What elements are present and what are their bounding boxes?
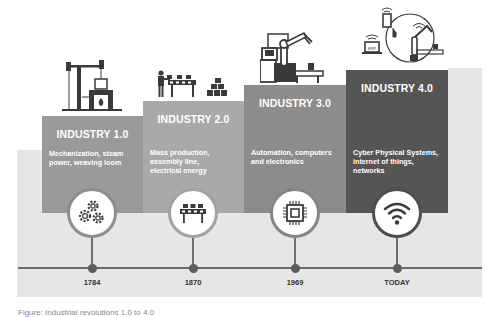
connected-iot-network-icon: ERP (360, 6, 460, 66)
stage-title: INDUSTRY 4.0 (346, 82, 448, 94)
year-label: TODAY (367, 278, 427, 287)
erp-label: ERP (368, 46, 377, 51)
stage-title: INDUSTRY 2.0 (143, 113, 244, 125)
stage-circle-4 (372, 188, 422, 238)
background-panel-right (448, 68, 482, 150)
figure-caption: Figure: Industrial revolutions 1.0 to 4.… (18, 308, 154, 317)
conveyor-belt-icon (178, 202, 208, 224)
timeline-dot (189, 264, 198, 273)
timeline-dot (291, 264, 300, 273)
stage-circle-3 (270, 188, 320, 238)
timeline-dot (393, 264, 402, 273)
steam-engine-icon (62, 57, 124, 113)
timeline-dot (88, 264, 97, 273)
assembly-line-worker-icon (155, 70, 235, 100)
stage-description: Cyber Physical Systems, internet of thin… (353, 148, 444, 175)
stage-description: Mass production, assembly line, electric… (150, 148, 240, 175)
stage-circle-2 (168, 188, 218, 238)
stage-title: INDUSTRY 1.0 (42, 128, 143, 140)
stage-circle-1 (67, 188, 117, 238)
year-label: 1969 (265, 278, 325, 287)
stage-description: Automation, computers and electronics (251, 148, 342, 166)
stage-description: Mechanization, steam power, weaving loom (49, 149, 139, 167)
microchip-icon (282, 200, 308, 226)
stage-title: INDUSTRY 3.0 (244, 97, 346, 109)
year-label: 1870 (163, 278, 223, 287)
robot-arm-computer-icon (260, 30, 330, 83)
year-label: 1784 (62, 278, 122, 287)
wifi-icon (382, 200, 412, 226)
gears-icon (77, 199, 107, 227)
